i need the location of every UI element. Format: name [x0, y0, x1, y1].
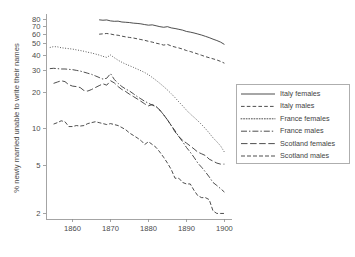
y-tick-label: 10 [32, 124, 40, 133]
x-axis-ticks: 18601870188018901900 [64, 219, 233, 233]
legend-label-0[interactable]: Italy females [280, 89, 321, 98]
chart-container: % newly married unable to write their na… [0, 0, 355, 257]
y-tick-label: 2 [36, 209, 40, 218]
legend-label-2[interactable]: France females [280, 114, 330, 123]
legend-label-5[interactable]: Scotland males [280, 151, 330, 160]
y-tick-label: 60 [32, 30, 40, 39]
y-tick-label: 20 [32, 88, 40, 97]
series-line-0 [99, 20, 224, 45]
x-tick-label: 1860 [64, 224, 81, 233]
series-line-5 [54, 121, 225, 214]
legend-label-3[interactable]: France males [280, 126, 324, 135]
x-tick-label: 1890 [178, 224, 195, 233]
y-tick-label: 40 [32, 51, 40, 60]
series-line-4 [54, 81, 225, 164]
y-axis-title: % newly married unable to write their na… [12, 43, 21, 193]
legend-label-1[interactable]: Italy males [280, 101, 315, 110]
y-axis-ticks: 807060504030201052 [32, 15, 46, 218]
y-tick-label: 5 [36, 161, 40, 170]
series-line-1 [99, 33, 224, 63]
x-tick-label: 1870 [102, 224, 119, 233]
y-axis-title-label: % newly married unable to write their na… [12, 43, 21, 193]
series-line-2 [50, 47, 225, 153]
chart-legend: Italy femalesItaly malesFrance femalesFr… [237, 85, 350, 164]
data-series-group [50, 20, 225, 214]
line-chart: % newly married unable to write their na… [0, 0, 355, 257]
y-tick-label: 50 [32, 39, 40, 48]
legend-label-4[interactable]: Scotland females [280, 139, 336, 148]
x-tick-label: 1880 [140, 224, 157, 233]
chart-axes [46, 14, 232, 219]
x-tick-label: 1900 [216, 224, 233, 233]
y-tick-label: 30 [32, 66, 40, 75]
